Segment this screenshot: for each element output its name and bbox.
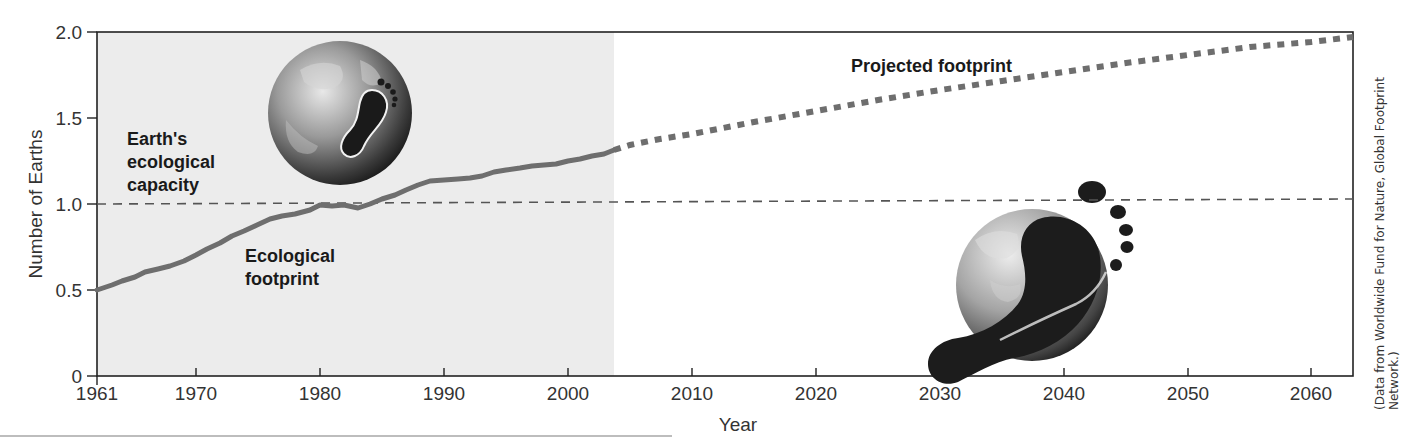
capacity-annotation: capacity	[127, 175, 199, 195]
x-tick-label: 2050	[1167, 383, 1209, 404]
source-credit: Network.)	[1387, 351, 1401, 410]
y-axis-title: Number of Earths	[25, 130, 46, 279]
x-tick-label: 2040	[1043, 383, 1085, 404]
capacity-annotation: ecological	[127, 152, 215, 172]
capacity-annotation: Earth's	[127, 129, 187, 149]
y-tick-label: 1.0	[56, 194, 82, 215]
x-tick-label: 2020	[795, 383, 837, 404]
x-tick-label: 2010	[671, 383, 713, 404]
projected-footprint-line	[614, 37, 1353, 150]
bottom-divider	[0, 435, 672, 437]
y-tick-label: 0.5	[56, 280, 82, 301]
x-tick-label: 1970	[175, 383, 217, 404]
y-axis	[87, 32, 97, 376]
x-tick-label: 2000	[547, 383, 589, 404]
ecological-footprint-chart: 0 0.5 1.0 1.5 2.0 1961 1970 1980 1990 20…	[0, 0, 1417, 441]
footprint-annotation: Ecological	[245, 246, 335, 266]
x-tick-label: 1961	[76, 383, 118, 404]
y-tick-label: 1.5	[56, 108, 82, 129]
source-credit: (Data from Worldwide Fund for Nature, Gl…	[1373, 77, 1387, 410]
x-tick-label: 2060	[1290, 383, 1332, 404]
x-tick-label: 2030	[919, 383, 961, 404]
globe-stepped-on-by-footprint-icon	[928, 181, 1134, 384]
x-tick-label: 1990	[423, 383, 465, 404]
y-tick-label: 2.0	[56, 22, 82, 43]
x-axis-title: Year	[719, 414, 758, 435]
projected-annotation: Projected footprint	[851, 56, 1012, 76]
globe-with-footprint-icon	[268, 41, 412, 185]
x-tick-label: 1980	[299, 383, 341, 404]
footprint-annotation: footprint	[245, 269, 319, 289]
